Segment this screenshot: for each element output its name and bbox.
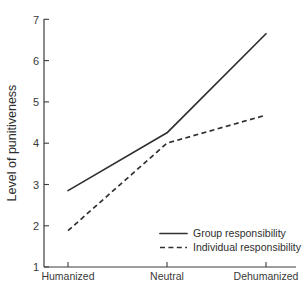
series-line-group-responsibility bbox=[68, 34, 266, 191]
legend-item-group-responsibility: Group responsibility bbox=[160, 227, 287, 239]
y-tick-label-5: 5 bbox=[33, 96, 39, 108]
y-tick-label-2: 2 bbox=[33, 220, 39, 232]
y-axis-title: Level of punitiveness bbox=[5, 85, 19, 202]
line-chart-figure: 7 6 5 4 3 2 1 Humanized Neutral Dehumani… bbox=[0, 0, 307, 290]
legend: Group responsibility Individual responsi… bbox=[160, 227, 302, 253]
x-tick-label-neutral: Neutral bbox=[150, 270, 184, 282]
x-tick-label-humanized: Humanized bbox=[41, 270, 94, 282]
legend-item-individual-responsibility: Individual responsibility bbox=[160, 241, 302, 253]
x-tick-label-dehumanized: Dehumanized bbox=[234, 270, 299, 282]
legend-label-group: Group responsibility bbox=[193, 227, 287, 239]
y-tick-label-3: 3 bbox=[33, 179, 39, 191]
legend-label-individual: Individual responsibility bbox=[193, 241, 302, 253]
y-tick-label-4: 4 bbox=[33, 137, 39, 149]
y-tick-label-7: 7 bbox=[33, 14, 39, 26]
y-tick-label-6: 6 bbox=[33, 55, 39, 67]
chart-canvas: 7 6 5 4 3 2 1 Humanized Neutral Dehumani… bbox=[0, 0, 307, 290]
y-tick-label-1: 1 bbox=[33, 261, 39, 273]
